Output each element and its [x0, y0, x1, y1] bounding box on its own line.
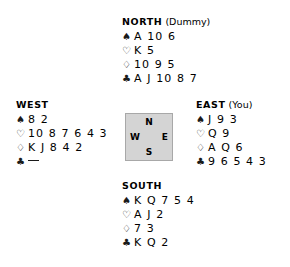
club-icon: ♣ [196, 155, 208, 169]
hand-north-diamonds: 10 9 5 [134, 58, 176, 72]
hand-south-diamonds-row: ♢ 7 3 [122, 222, 195, 236]
hand-south-hearts-row: ♡ A J 2 [122, 208, 195, 222]
club-icon: ♣ [16, 155, 28, 169]
hand-north-hearts-row: ♡ K 5 [122, 44, 210, 58]
hand-south-clubs: K Q 2 [134, 236, 169, 250]
hand-west-clubs [28, 155, 39, 169]
hand-south-diamonds: 7 3 [134, 222, 155, 236]
hand-north-label: NORTH (Dummy) [122, 16, 210, 27]
hand-west-diamonds: K J 8 4 2 [28, 141, 83, 155]
compass-east-label: E [162, 132, 168, 142]
heart-icon: ♡ [16, 127, 28, 141]
bridge-deal-diagram: NORTH (Dummy) ♠ A 10 6 ♡ K 5 ♢ 10 9 5 ♣ … [0, 0, 290, 267]
hand-west-diamonds-row: ♢ K J 8 4 2 [16, 141, 108, 155]
hand-west-spades-row: ♠ 8 2 [16, 113, 108, 127]
hand-south-seat: SOUTH [122, 180, 162, 191]
spade-icon: ♠ [122, 30, 134, 44]
diamond-icon: ♢ [122, 222, 134, 236]
heart-icon: ♡ [122, 44, 134, 58]
hand-north-hearts: K 5 [134, 44, 155, 58]
diamond-icon: ♢ [122, 58, 134, 72]
hand-east-spades-row: ♠ J 9 3 [196, 113, 267, 127]
diamond-icon: ♢ [16, 141, 28, 155]
hand-east-hearts: Q 9 [208, 127, 230, 141]
heart-icon: ♡ [122, 208, 134, 222]
spade-icon: ♠ [122, 194, 134, 208]
compass-north-label: N [145, 117, 153, 127]
hand-west-hearts: 10 8 7 6 4 3 [28, 127, 108, 141]
spade-icon: ♠ [196, 113, 208, 127]
hand-east-diamonds-row: ♢ A Q 6 [196, 141, 267, 155]
hand-north-note: (Dummy) [162, 16, 210, 27]
heart-icon: ♡ [196, 127, 208, 141]
hand-north-clubs-row: ♣ A J 10 8 7 [122, 72, 210, 86]
hand-east: EAST (You) ♠ J 9 3 ♡ Q 9 ♢ A Q 6 ♣ 9 6 5… [196, 99, 267, 169]
hand-west-seat: WEST [16, 99, 49, 110]
hand-east-clubs-row: ♣ 9 6 5 4 3 [196, 155, 267, 169]
hand-west-clubs-row: ♣ [16, 155, 108, 169]
hand-east-diamonds: A Q 6 [208, 141, 244, 155]
hand-south-spades: K Q 7 5 4 [134, 194, 195, 208]
diamond-icon: ♢ [196, 141, 208, 155]
hand-north-spades: A 10 6 [134, 30, 176, 44]
hand-north-seat: NORTH [122, 16, 162, 27]
hand-east-hearts-row: ♡ Q 9 [196, 127, 267, 141]
hand-east-spades: J 9 3 [208, 113, 238, 127]
hand-east-seat: EAST [196, 99, 226, 110]
hand-west-label: WEST [16, 99, 108, 110]
spade-icon: ♠ [16, 113, 28, 127]
hand-north-clubs: A J 10 8 7 [134, 72, 198, 86]
hand-north-spades-row: ♠ A 10 6 [122, 30, 210, 44]
hand-south-label: SOUTH [122, 180, 195, 191]
hand-south-hearts: A J 2 [134, 208, 164, 222]
compass-west-label: W [130, 132, 140, 142]
compass-south-label: S [146, 147, 152, 157]
club-icon: ♣ [122, 72, 134, 86]
hand-south-spades-row: ♠ K Q 7 5 4 [122, 194, 195, 208]
hand-east-note: (You) [226, 99, 253, 110]
hand-east-clubs: 9 6 5 4 3 [208, 155, 267, 169]
hand-east-label: EAST (You) [196, 99, 267, 110]
hand-south: SOUTH ♠ K Q 7 5 4 ♡ A J 2 ♢ 7 3 ♣ K Q 2 [122, 180, 195, 250]
hand-west-hearts-row: ♡ 10 8 7 6 4 3 [16, 127, 108, 141]
hand-north: NORTH (Dummy) ♠ A 10 6 ♡ K 5 ♢ 10 9 5 ♣ … [122, 16, 210, 86]
void-dash [28, 160, 39, 161]
club-icon: ♣ [122, 236, 134, 250]
hand-west-spades: 8 2 [28, 113, 49, 127]
hand-south-clubs-row: ♣ K Q 2 [122, 236, 195, 250]
hand-north-diamonds-row: ♢ 10 9 5 [122, 58, 210, 72]
compass-box: N W E S [125, 113, 173, 161]
hand-west: WEST ♠ 8 2 ♡ 10 8 7 6 4 3 ♢ K J 8 4 2 ♣ [16, 99, 108, 169]
